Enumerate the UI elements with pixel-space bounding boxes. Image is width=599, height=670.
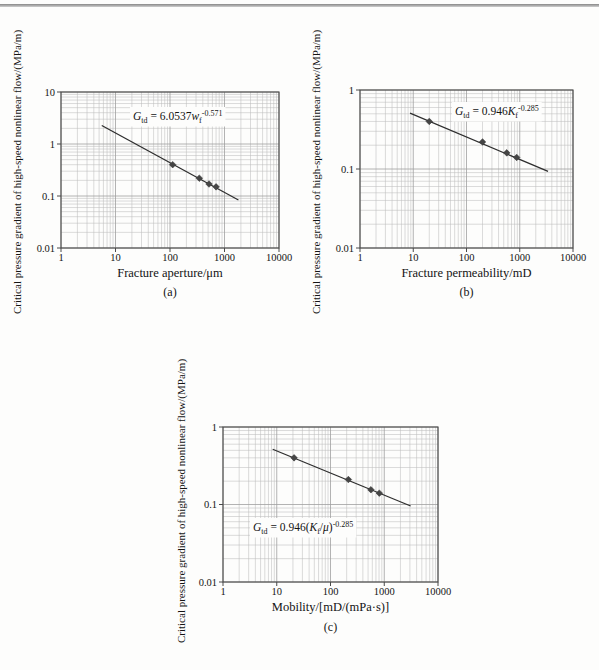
x-tick-label: 1000 xyxy=(374,586,395,597)
y-axis-label: Critical pressure gradient of high-speed… xyxy=(310,30,323,314)
y-tick-label: 0.1 xyxy=(204,499,217,510)
x-tick-label: 100 xyxy=(323,586,339,597)
x-tick-label: 10000 xyxy=(266,252,292,263)
x-tick-label: 100 xyxy=(162,252,178,263)
y-tick-label: 1 xyxy=(50,139,55,150)
chart-b: 11010010001000010.10.01Gtd = 0.946Kf-0.2… xyxy=(300,14,599,316)
axis-ticks xyxy=(219,427,438,586)
y-tick-label: 0.1 xyxy=(42,191,55,202)
x-tick-label: 10 xyxy=(110,252,121,263)
chart-c-svg: 11010010001000010.10.01Gtd = 0.946(Kf/μ)… xyxy=(150,346,460,648)
subplot-caption: (a) xyxy=(163,285,176,299)
x-axis-label: Fracture aperture/μm xyxy=(117,266,223,280)
y-tick-label: 1 xyxy=(349,85,354,96)
y-tick-label: 0.1 xyxy=(341,164,354,175)
x-tick-label: 10000 xyxy=(560,252,586,263)
data-point-marker xyxy=(291,455,298,462)
data-point-marker xyxy=(426,118,433,125)
x-axis-label: Mobility/[mD/(mPa·s)] xyxy=(272,600,389,614)
chart-a: 1101001000100001010.10.01Gtd = 6.0537wf-… xyxy=(0,14,310,316)
page-top-rule xyxy=(0,4,599,7)
chart-b-svg: 11010010001000010.10.01Gtd = 0.946Kf-0.2… xyxy=(300,14,599,316)
y-tick-label: 0.01 xyxy=(336,243,354,254)
y-tick-label: 1 xyxy=(212,422,217,433)
y-tick-label: 0.01 xyxy=(199,577,217,588)
chart-c: 11010010001000010.10.01Gtd = 0.946(Kf/μ)… xyxy=(150,346,460,648)
y-tick-label: 10 xyxy=(45,87,56,98)
x-tick-label: 1000 xyxy=(509,252,530,263)
chart-a-svg: 1101001000100001010.10.01Gtd = 6.0537wf-… xyxy=(0,14,310,316)
y-axis-label: Critical pressure gradient of high-speed… xyxy=(11,30,24,314)
x-tick-label: 1 xyxy=(220,586,225,597)
subplot-caption: (b) xyxy=(460,285,474,299)
subplot-caption: (c) xyxy=(324,620,337,634)
x-tick-label: 10 xyxy=(408,252,419,263)
data-point-marker xyxy=(206,181,213,188)
x-tick-label: 100 xyxy=(459,252,475,263)
x-tick-label: 1 xyxy=(58,252,63,263)
data-point-marker xyxy=(368,486,375,493)
x-tick-label: 10000 xyxy=(425,586,451,597)
y-tick-label: 0.01 xyxy=(37,243,55,254)
x-axis-label: Fracture permeability/mD xyxy=(401,266,531,280)
x-tick-label: 1000 xyxy=(214,252,235,263)
x-tick-label: 10 xyxy=(272,586,283,597)
y-axis-label: Critical pressure gradient of high-speed… xyxy=(175,359,188,643)
x-tick-label: 1 xyxy=(357,252,362,263)
